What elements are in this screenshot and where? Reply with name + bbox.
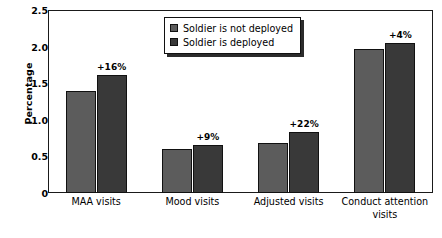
- x-axis-label: Mood visits: [137, 196, 247, 209]
- x-axis-tick-labels: MAA visitsMood visitsAdjusted visitsCond…: [48, 196, 433, 238]
- y-tick-label: 1.5: [31, 78, 48, 89]
- bar-not-deployed: [354, 49, 384, 193]
- bar-not-deployed: [258, 143, 288, 193]
- bar-deployed: [289, 132, 319, 193]
- bar-deployed: [97, 75, 127, 193]
- legend-swatch-icon: [170, 24, 178, 32]
- bar-not-deployed: [66, 91, 96, 193]
- legend-item: Soldier is not deployed: [170, 21, 293, 35]
- legend-item: Soldier is deployed: [170, 35, 293, 49]
- bar-annotation: +16%: [97, 62, 126, 72]
- bar-deployed: [385, 43, 415, 193]
- legend-label: Soldier is deployed: [183, 37, 274, 48]
- legend-swatch-icon: [170, 38, 178, 46]
- bar-annotation: +4%: [389, 30, 412, 40]
- legend-label: Soldier is not deployed: [183, 23, 293, 34]
- chart-legend: Soldier is not deployedSoldier is deploy…: [164, 17, 301, 54]
- y-tick-label: 2.0: [31, 41, 48, 52]
- y-tick-label: 0.5: [31, 151, 48, 162]
- bar-chart-figure: Percentage 00.51.01.52.02.5 +16%+9%+22%+…: [0, 0, 442, 238]
- x-axis-label: Adjusted visits: [234, 196, 344, 209]
- bar-annotation: +22%: [290, 119, 319, 129]
- bar-deployed: [193, 145, 223, 193]
- y-tick-label: 2.5: [31, 5, 48, 16]
- x-axis-label: Conduct attention visits: [330, 196, 440, 221]
- x-axis-label: MAA visits: [41, 196, 151, 209]
- bar-annotation: +9%: [196, 132, 219, 142]
- bar-group: +4%: [354, 10, 415, 193]
- bar-not-deployed: [162, 149, 192, 193]
- y-tick-label: 1.0: [31, 114, 48, 125]
- bar-group: +16%: [66, 10, 127, 193]
